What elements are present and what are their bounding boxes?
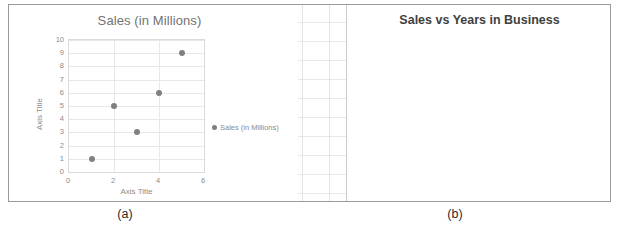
chart-a-title: Sales (in Millions) xyxy=(9,13,290,28)
gridline-vertical xyxy=(159,40,160,172)
gridline-horizontal xyxy=(69,66,204,67)
legend-marker-icon xyxy=(212,125,217,130)
y-axis-tick-label: 8 xyxy=(50,61,64,70)
gridline-horizontal xyxy=(69,119,204,120)
data-point[interactable] xyxy=(89,156,95,162)
sheet-blank-patch xyxy=(290,5,298,201)
chart-a-plot-area xyxy=(68,39,205,173)
y-axis-tick-label: 6 xyxy=(50,87,64,96)
gridline-horizontal xyxy=(69,40,204,41)
chart-object-a[interactable]: Sales (in Millions) Axis Title Axis Titl… xyxy=(9,5,290,201)
figure-frame: Sales (in Millions) Axis Title Axis Titl… xyxy=(8,4,611,202)
chart-a-y-axis-title: Axis Title xyxy=(35,98,44,130)
gridline-horizontal xyxy=(69,93,204,94)
caption-b: (b) xyxy=(415,207,495,221)
chart-b-title: Sales vs Years in Business xyxy=(347,13,611,27)
chart-a-x-axis-title: Axis Title xyxy=(68,187,205,196)
y-axis-tick-label: 2 xyxy=(50,140,64,149)
y-axis-tick-label: 1 xyxy=(50,153,64,162)
y-axis-tick-label: 9 xyxy=(50,48,64,57)
gridline-horizontal xyxy=(69,146,204,147)
data-point[interactable] xyxy=(111,103,117,109)
chart-a-gridlines xyxy=(69,40,204,172)
y-axis-tick-label: 4 xyxy=(50,114,64,123)
x-axis-tick-label: 2 xyxy=(111,176,115,185)
gridline-horizontal xyxy=(69,106,204,107)
gridline-horizontal xyxy=(69,80,204,81)
x-axis-tick-label: 0 xyxy=(66,176,70,185)
page-body-text-sliver xyxy=(118,231,500,239)
data-point[interactable] xyxy=(156,90,162,96)
x-axis-tick-label: 6 xyxy=(201,176,205,185)
caption-a: (a) xyxy=(85,207,165,221)
chart-a-legend-label: Sales (in Millions) xyxy=(220,123,279,132)
y-axis-tick-label: 5 xyxy=(50,101,64,110)
y-axis-tick-label: 10 xyxy=(50,35,64,44)
y-axis-tick-label: 7 xyxy=(50,74,64,83)
data-point[interactable] xyxy=(179,50,185,56)
chart-object-b[interactable]: Sales vs Years in Business Sales (in $Mi… xyxy=(346,5,611,201)
y-axis-tick-label: 0 xyxy=(50,167,64,176)
data-point[interactable] xyxy=(134,129,140,135)
y-axis-tick-label: 3 xyxy=(50,127,64,136)
x-axis-tick-label: 4 xyxy=(156,176,160,185)
chart-a-legend[interactable]: Sales (in Millions) xyxy=(212,123,279,132)
